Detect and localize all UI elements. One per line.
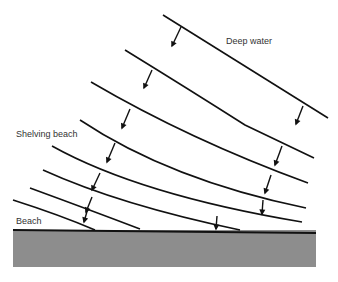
shelving-beach-label: Shelving beach	[16, 130, 78, 139]
wave-crest-line	[80, 120, 306, 208]
wave-crest-line	[30, 188, 140, 229]
wave-crest-line	[163, 15, 328, 118]
diagram-canvas	[0, 0, 338, 282]
arrowhead-icon	[82, 217, 88, 224]
arrowhead-icon	[264, 188, 270, 195]
arrowhead-icon	[213, 224, 219, 230]
beach-label: Beach	[16, 217, 42, 226]
wave-refraction-diagram: Deep water Shelving beach Beach	[0, 0, 338, 282]
wave-crests	[13, 15, 328, 230]
wave-crest-line	[125, 50, 314, 158]
beach-ground	[13, 230, 316, 267]
deep-water-label: Deep water	[226, 37, 272, 46]
